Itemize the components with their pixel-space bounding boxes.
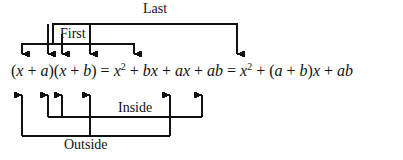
- eq-plus7: +: [320, 62, 337, 79]
- foil-diagram: Last First Inside Outside (x + a)(x + b)…: [0, 0, 403, 160]
- eq-rparen1: )(: [48, 62, 59, 79]
- eq-term-xsq2: x2: [240, 62, 252, 79]
- eq-plus1: +: [23, 62, 40, 79]
- eq-equals1: =: [97, 62, 114, 79]
- eq-term-bx: bx: [143, 62, 158, 79]
- eq-term-ab1: ab: [207, 62, 223, 79]
- eq-plus3: +: [126, 62, 143, 79]
- equation-expression: (x + a)(x + b) = x2 + bx + ax + ab = x2 …: [11, 61, 353, 81]
- eq-plus6: +: [252, 62, 269, 79]
- eq-term-xsq1: x2: [114, 62, 126, 79]
- eq-term-ax: ax: [175, 62, 190, 79]
- label-last: Last: [143, 2, 167, 16]
- eq-equals2: =: [223, 62, 240, 79]
- eq-group-ab: (a + b)x: [269, 62, 320, 79]
- label-inside: Inside: [118, 101, 152, 115]
- eq-plus2: +: [66, 62, 83, 79]
- eq-plus5: +: [190, 62, 207, 79]
- eq-term-ab2: ab: [337, 62, 353, 79]
- label-outside: Outside: [64, 138, 108, 152]
- label-first: First: [60, 27, 86, 41]
- eq-plus4: +: [158, 62, 175, 79]
